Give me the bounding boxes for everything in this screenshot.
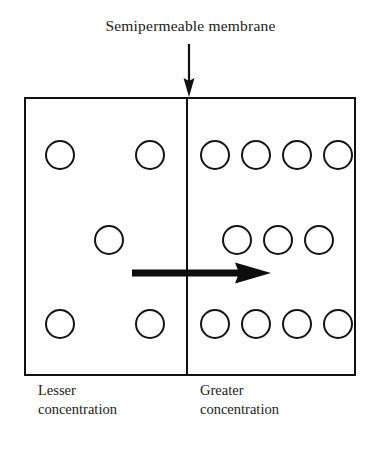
solute-particle <box>135 140 165 170</box>
solute-particle <box>94 225 124 255</box>
solute-particle <box>282 140 312 170</box>
solute-particle <box>323 140 353 170</box>
solute-particle <box>304 225 334 255</box>
solute-particle <box>263 225 293 255</box>
solute-particle <box>282 309 312 339</box>
figure-title: Semipermeable membrane <box>0 17 381 35</box>
left-caption-line-1: Lesser <box>38 381 117 400</box>
membrane-pointer-arrow <box>168 44 210 98</box>
solute-particle <box>45 309 75 339</box>
solute-particle <box>241 140 271 170</box>
solute-particle <box>241 309 271 339</box>
right-compartment-caption: Greater concentration <box>200 381 279 419</box>
solute-particle <box>222 225 252 255</box>
right-caption-line-2: concentration <box>200 400 279 419</box>
right-caption-line-1: Greater <box>200 381 279 400</box>
left-caption-line-2: concentration <box>38 400 117 419</box>
solute-particle <box>323 309 353 339</box>
solute-particle <box>200 309 230 339</box>
solute-particle <box>200 140 230 170</box>
water-flow-arrow <box>132 258 272 288</box>
solute-particle <box>45 140 75 170</box>
osmosis-diagram: Semipermeable membrane Lesser concentrat… <box>0 0 381 451</box>
semipermeable-membrane-line <box>186 97 188 376</box>
left-compartment-caption: Lesser concentration <box>38 381 117 419</box>
solute-particle <box>135 309 165 339</box>
